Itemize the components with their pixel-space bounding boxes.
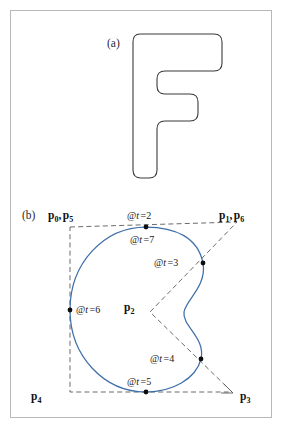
- knot-label-t4: @t=4: [150, 353, 174, 364]
- letter-f-outline-icon: [133, 34, 222, 178]
- knot-dot-t2-t7: [144, 225, 149, 230]
- panel-b-group: (b) p0,p5: [22, 209, 250, 405]
- control-point-label-p4: p4: [31, 390, 41, 405]
- p1-comma: ,: [229, 209, 232, 221]
- p0-comma: ,: [58, 209, 61, 221]
- knot-label-t3: @t=3: [154, 257, 178, 268]
- svg-text:p2: p2: [124, 301, 134, 316]
- knot-dot-t3: [201, 261, 206, 266]
- knot-dot-t4: [199, 357, 204, 362]
- p3-sub: 3: [246, 396, 250, 405]
- figure-root: (a) (b): [0, 0, 284, 431]
- knot-label-t6: @t=6: [76, 304, 100, 315]
- knot-label-t2: @t=2: [127, 210, 151, 221]
- p5-sub: 5: [69, 215, 73, 224]
- p6-sub: 6: [240, 215, 244, 224]
- knot-label-t5: @t=5: [127, 376, 151, 387]
- control-point-label-p2: p2: [124, 301, 134, 316]
- panel-a-group: (a): [107, 34, 222, 178]
- control-point-label-p1-p6: p1,p6: [219, 209, 244, 224]
- control-point-label-p0-p5: p0,p5: [48, 209, 73, 224]
- knot-dot-t6: [68, 308, 73, 313]
- figure-canvas: (a) (b): [0, 0, 284, 431]
- panel-a-tag: (a): [107, 37, 120, 50]
- svg-text:p3: p3: [240, 390, 250, 405]
- svg-text:p4: p4: [31, 390, 41, 405]
- panel-b-tag: (b): [22, 209, 36, 222]
- p4-sub: 4: [37, 396, 41, 405]
- svg-text:p0,p5: p0,p5: [48, 209, 73, 224]
- knot-label-t7: @t=7: [130, 234, 154, 245]
- svg-text:p1,p6: p1,p6: [219, 209, 244, 224]
- control-point-label-p3: p3: [240, 390, 250, 405]
- knot-dot-t5: [144, 390, 149, 395]
- p2-sub: 2: [130, 307, 134, 316]
